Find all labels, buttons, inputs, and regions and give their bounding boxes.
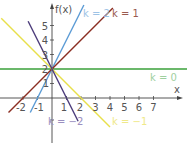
svg-text:1: 1 <box>43 78 49 89</box>
y-tick-labels: 1 2 3 4 5 <box>42 21 49 90</box>
svg-text:1: 1 <box>61 102 67 113</box>
svg-text:3: 3 <box>92 102 98 113</box>
line-chart: -2 -1 1 2 3 4 5 6 7 1 2 3 4 5 f(x) x k =… <box>0 0 187 143</box>
svg-text:2: 2 <box>77 102 83 113</box>
svg-text:4: 4 <box>42 35 48 46</box>
label-km2: k = −2 <box>48 116 83 127</box>
svg-text:2: 2 <box>42 64 48 75</box>
x-axis-arrow-icon <box>177 96 183 100</box>
svg-text:3: 3 <box>42 50 48 61</box>
svg-text:6: 6 <box>136 102 142 113</box>
line-k1 <box>9 8 113 113</box>
svg-text:7: 7 <box>150 102 156 113</box>
svg-text:-2: -2 <box>16 102 26 113</box>
y-axis-arrow-icon <box>50 3 54 9</box>
x-axis-label: x <box>174 84 180 95</box>
svg-text:5: 5 <box>42 21 48 32</box>
label-k0: k = 0 <box>150 72 177 83</box>
label-k2: k = 2 <box>83 8 110 19</box>
svg-text:4: 4 <box>107 102 113 113</box>
label-k1: k = 1 <box>112 8 139 19</box>
line-k2 <box>30 5 84 113</box>
svg-text:5: 5 <box>121 102 127 113</box>
y-axis-label: f(x) <box>55 4 72 15</box>
svg-text:-1: -1 <box>34 102 44 113</box>
label-km1: k = −1 <box>112 116 147 127</box>
